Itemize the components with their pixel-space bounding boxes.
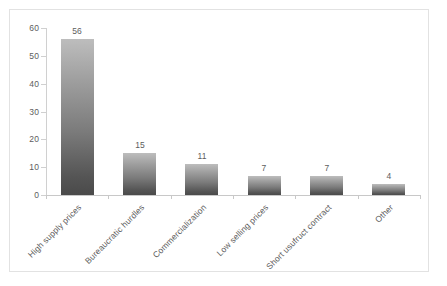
bar-value-label: 11 [182,152,222,161]
bar-value-label: 15 [120,141,160,150]
x-axis-tick-mark [171,195,172,199]
bar-chart-plot-area: 0102030405060 561511774 High supply pric… [10,10,430,273]
x-axis-tick-mark [295,195,296,199]
y-axis-line [46,28,47,195]
y-axis-tick-label: 60 [10,24,39,33]
x-axis-tick-mark [420,195,421,199]
y-axis-tick-label: 50 [10,52,39,61]
bar [61,39,94,195]
y-axis-tick-label: 30 [10,108,39,117]
bar [123,153,156,195]
x-axis-tick-mark [233,195,234,199]
bar [372,184,405,195]
bar-value-label: 7 [307,164,347,173]
y-axis-tick-mark [41,56,46,57]
y-axis-tick-mark [41,167,46,168]
x-axis-tick-mark [358,195,359,199]
y-axis-tick-mark [41,112,46,113]
x-axis-tick-mark [46,195,47,199]
bar-value-label: 4 [369,172,409,181]
y-axis-tick-mark [41,28,46,29]
y-axis-tick-label: 40 [10,80,39,89]
y-axis-tick-label: 10 [10,163,39,172]
y-axis-tick-mark [41,84,46,85]
bar-value-label: 7 [244,164,284,173]
bar-value-label: 56 [57,27,97,36]
bar [185,164,218,195]
y-axis-tick-label: 0 [10,191,39,200]
chart-frame: 0102030405060 561511774 High supply pric… [9,9,429,272]
y-axis-tick-label: 20 [10,135,39,144]
x-axis-tick-mark [108,195,109,199]
y-axis-tick-mark [41,139,46,140]
bar [310,176,343,195]
bar [248,176,281,195]
